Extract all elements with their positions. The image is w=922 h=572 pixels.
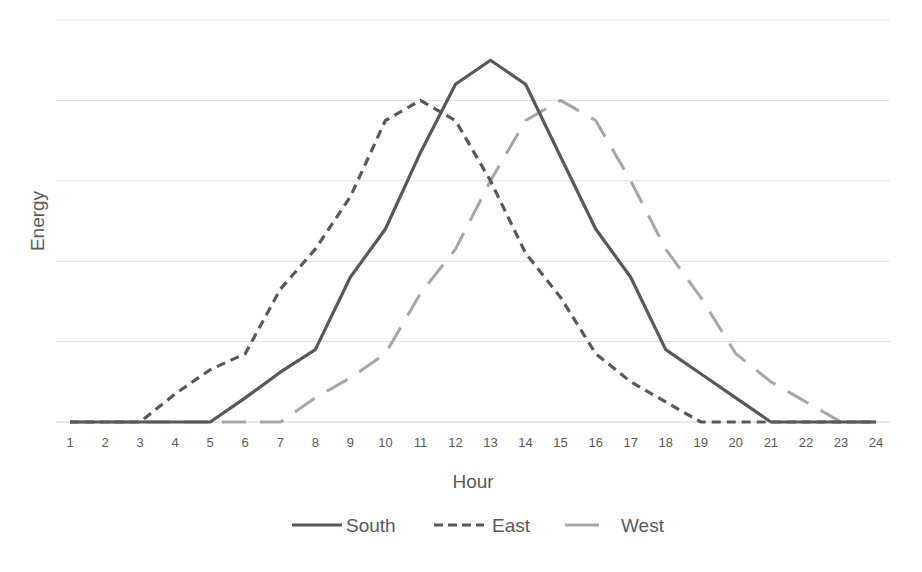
- legend-label-south: South: [346, 515, 396, 536]
- x-tick-labels: 123456789101112131415161718192021222324: [66, 435, 883, 450]
- x-tick-label: 23: [834, 435, 848, 450]
- x-tick-label: 19: [694, 435, 708, 450]
- x-tick-label: 20: [729, 435, 743, 450]
- x-axis-title: Hour: [452, 471, 494, 492]
- x-tick-label: 11: [414, 435, 428, 450]
- legend-label-east: East: [492, 515, 531, 536]
- series-layer: [70, 60, 876, 422]
- x-tick-label: 9: [347, 435, 354, 450]
- legend: SouthEastWest: [292, 515, 665, 536]
- x-tick-label: 14: [518, 435, 532, 450]
- legend-item-east: East: [434, 515, 531, 536]
- x-tick-label: 5: [207, 435, 214, 450]
- x-tick-label: 2: [101, 435, 108, 450]
- x-tick-label: 7: [277, 435, 284, 450]
- x-tick-label: 15: [553, 435, 567, 450]
- legend-item-south: South: [292, 515, 396, 536]
- x-tick-label: 24: [869, 435, 883, 450]
- x-tick-label: 18: [659, 435, 673, 450]
- y-axis-title: Energy: [27, 190, 48, 251]
- x-tick-label: 4: [172, 435, 179, 450]
- x-tick-label: 3: [136, 435, 143, 450]
- gridlines: [56, 20, 890, 422]
- x-tick-label: 16: [588, 435, 602, 450]
- x-tick-label: 17: [623, 435, 637, 450]
- x-tick-label: 6: [242, 435, 249, 450]
- x-tick-label: 10: [378, 435, 392, 450]
- x-tick-label: 12: [448, 435, 462, 450]
- x-tick-label: 1: [66, 435, 73, 450]
- legend-label-west: West: [621, 515, 665, 536]
- series-line-south: [70, 60, 876, 422]
- x-tick-label: 13: [483, 435, 497, 450]
- x-tick-label: 8: [312, 435, 319, 450]
- x-tick-label: 22: [799, 435, 813, 450]
- x-tick-label: 21: [764, 435, 778, 450]
- energy-line-chart: 123456789101112131415161718192021222324 …: [0, 0, 922, 572]
- legend-item-west: West: [565, 515, 665, 536]
